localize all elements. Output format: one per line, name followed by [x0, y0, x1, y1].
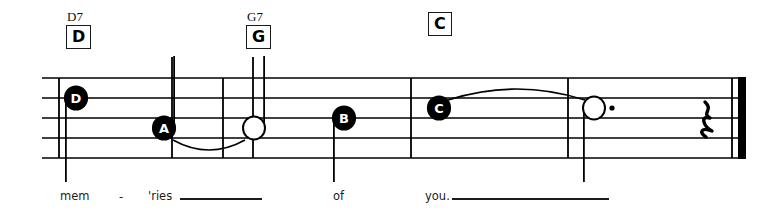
- final-barline-thick: [738, 77, 746, 159]
- melisma-ries: [180, 198, 262, 200]
- note-a-letter: A: [159, 121, 169, 136]
- lyric-hyphen: -: [119, 190, 123, 204]
- lyric-ries: 'ries: [148, 190, 172, 202]
- tie-a-to-open: [173, 140, 245, 150]
- chord-g7-superscript: G7: [247, 10, 271, 23]
- lyric-mem: mem: [60, 190, 89, 202]
- chord-d7-box: D: [66, 25, 91, 49]
- note-d-letter: D: [71, 91, 82, 106]
- melisma-you: [452, 198, 609, 200]
- lyric-you: you.: [425, 190, 450, 202]
- chord-c: C: [428, 10, 452, 36]
- note-c-letter: C: [434, 101, 444, 116]
- chord-d7: D7D: [66, 10, 91, 49]
- chord-g7-box: G: [246, 25, 271, 49]
- note-tied-open-2: [583, 97, 605, 120]
- chord-d7-superscript: D7: [67, 10, 91, 23]
- sheet-music-page: DABC D7DG7GC mem-'riesofyou.: [0, 0, 780, 216]
- music-staff-notation: DABC: [0, 0, 780, 216]
- chord-g7: G7G: [246, 10, 271, 49]
- note-b-letter: B: [339, 111, 349, 126]
- note-tied-open-1: [243, 117, 265, 140]
- chord-c-box: C: [428, 12, 452, 36]
- quarter-rest: [702, 102, 712, 137]
- note-tied-open-2-augmentation-dot: [609, 105, 614, 110]
- lyric-of: of: [333, 190, 344, 202]
